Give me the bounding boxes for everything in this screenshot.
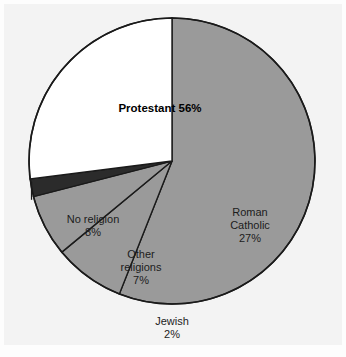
slice-label-jewish: Jewish 2% [136,315,208,341]
slice-label-roman-catholic-line1: Roman [213,206,287,219]
slice-label-other-religions-line3: 7% [104,274,178,287]
pie-chart-figure: Protestant 56% Roman Catholic 27% No rel… [0,0,346,357]
pie-chart-svg [0,0,346,357]
slice-label-other-religions-line2: religions [104,261,178,274]
slice-label-no-religion: No religion 8% [43,213,143,239]
slice-label-roman-catholic: Roman Catholic 27% [213,206,287,244]
slice-label-no-religion-line1: No religion [43,213,143,226]
slice-label-jewish-line1: Jewish [136,315,208,328]
slice-label-jewish-line2: 2% [136,328,208,341]
slice-label-no-religion-line2: 8% [43,226,143,239]
slice-label-other-religions: Other religions 7% [104,248,178,286]
slice-label-roman-catholic-line2: Catholic [213,219,287,232]
slice-label-protestant: Protestant 56% [100,102,220,115]
slice-label-protestant-line1: Protestant 56% [100,102,220,115]
slice-label-other-religions-line1: Other [104,248,178,261]
pie-slice-roman-catholic[interactable] [29,18,172,179]
slice-label-roman-catholic-line3: 27% [213,232,287,245]
